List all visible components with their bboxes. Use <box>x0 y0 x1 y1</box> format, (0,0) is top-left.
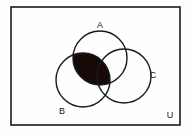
set-label-b: B <box>59 106 65 116</box>
venn-diagram-canvas: A B C U <box>0 0 192 139</box>
set-label-a: A <box>97 20 103 30</box>
universal-set-label: U <box>167 110 174 120</box>
venn-diagram-figure: A B C U <box>0 0 192 139</box>
set-label-c: C <box>150 70 157 80</box>
